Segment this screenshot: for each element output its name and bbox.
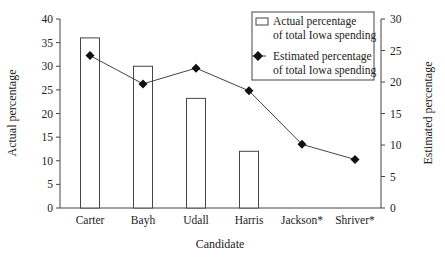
y-tick-label-right: 30 — [390, 13, 402, 25]
legend-bar-swatch-icon — [256, 18, 268, 25]
x-tick-label: Shriver* — [335, 214, 375, 226]
y-tick-label-right: 5 — [390, 171, 396, 183]
x-tick-label: Carter — [76, 214, 105, 226]
legend-line-label-1: Estimated percentage — [273, 50, 372, 63]
legend-bar-label-2: of total Iowa spending — [273, 29, 376, 42]
y-tick-label-right: 10 — [390, 139, 402, 151]
bars — [81, 38, 259, 208]
x-tick-label: Bayh — [131, 214, 156, 227]
y-tick-label-left: 20 — [42, 108, 54, 120]
y-tick-label-right: 0 — [390, 202, 396, 214]
legend: Actual percentage of total Iowa spending… — [252, 12, 376, 80]
y-tick-label-left: 15 — [42, 131, 54, 143]
y-tick-label-left: 0 — [47, 202, 53, 214]
legend-bar-label-1: Actual percentage — [273, 15, 356, 28]
y-tick-label-right: 20 — [390, 76, 402, 88]
y-tick-label-left: 40 — [42, 13, 54, 25]
y-axis-title-left: Actual percentage — [5, 70, 19, 157]
chart: 0510152025303540051015202530CarterBayhUd… — [0, 0, 445, 261]
y-tick-label-left: 25 — [42, 84, 54, 96]
y-tick-label-left: 30 — [42, 60, 54, 72]
x-tick-label: Udall — [183, 214, 209, 226]
y-axis-title-right: Estimated percentage — [421, 62, 435, 165]
y-tick-label-left: 5 — [47, 178, 53, 190]
x-tick-label: Harris — [235, 214, 264, 226]
bar — [187, 98, 206, 208]
y-tick-label-left: 10 — [42, 155, 54, 167]
diamond-marker-icon — [192, 64, 201, 73]
diamond-marker-icon — [351, 155, 360, 164]
y-tick-label-right: 25 — [390, 45, 402, 57]
bar — [240, 151, 259, 208]
x-tick-label: Jackson* — [281, 214, 323, 226]
legend-line-label-2: of total Iowa spending — [273, 64, 376, 77]
bar — [81, 38, 100, 208]
y-tick-label-right: 15 — [390, 108, 402, 120]
y-tick-label-left: 35 — [42, 37, 54, 49]
x-axis-title: Candidate — [196, 237, 245, 251]
